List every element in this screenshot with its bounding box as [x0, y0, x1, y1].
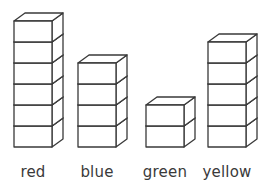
cube-face-front	[78, 105, 116, 126]
cube-face-front	[78, 126, 116, 147]
cube-face-front	[208, 63, 246, 84]
cube-tower-chart: red blue green yellow	[0, 0, 264, 186]
cube-face-front	[78, 63, 116, 84]
cube-face-front	[14, 42, 52, 63]
cube-face-front	[14, 84, 52, 105]
cube-face-front	[146, 105, 184, 126]
cube-face-front	[146, 126, 184, 147]
cube-face-front	[208, 105, 246, 126]
cube-stack-red	[14, 13, 63, 147]
cube-face-front	[78, 84, 116, 105]
cube-stack-blue	[78, 55, 127, 147]
cube-stack-green	[146, 97, 195, 147]
cube-green-2	[146, 97, 195, 126]
cube-face-front	[14, 21, 52, 42]
category-axis-labels: red blue green yellow	[0, 158, 264, 186]
cube-face-front	[208, 42, 246, 63]
cube-face-front	[208, 84, 246, 105]
cube-face-front	[208, 126, 246, 147]
category-label-yellow: yellow	[182, 158, 264, 186]
cube-yellow-5	[208, 34, 257, 63]
cube-face-front	[14, 105, 52, 126]
cube-face-front	[14, 126, 52, 147]
cube-face-front	[14, 63, 52, 84]
cube-stack-yellow	[208, 34, 257, 147]
cube-blue-4	[78, 55, 127, 84]
cube-red-6	[14, 13, 63, 42]
